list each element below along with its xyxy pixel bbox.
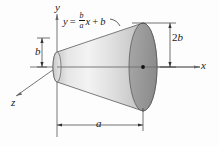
dimension-label-2b: 2b (172, 32, 183, 43)
diagram-canvas (0, 0, 219, 146)
equation-equals: = (70, 16, 76, 27)
dimension-label-b: b (35, 46, 41, 57)
dim-a-arrow-left (57, 123, 62, 126)
z-axis-line (16, 67, 57, 96)
figure-container: y x z b a 2b y = b a x + b (0, 0, 219, 146)
equation-plus: + (92, 16, 98, 27)
dimension-label-a: a (96, 118, 102, 129)
dim-b-arrow-bottom (40, 62, 43, 67)
equation-variable-x: x (86, 16, 91, 27)
y-axis-label: y (55, 2, 60, 13)
equation-fraction-denominator: a (79, 20, 85, 30)
equation-lhs: y (63, 16, 68, 27)
x-axis-arrowhead (194, 65, 200, 68)
dim-a-arrow-right (138, 123, 143, 126)
equation-fraction-numerator: b (79, 12, 85, 21)
y-axis-arrowhead (55, 14, 58, 20)
z-axis-arrowhead (16, 92, 22, 96)
equation-label: y = b a x + b (63, 12, 105, 30)
equation-fraction: b a (79, 12, 85, 30)
equation-leader-line (110, 19, 120, 26)
dimension-label-2b-var: b (178, 31, 184, 43)
equation-intercept: b (100, 16, 105, 27)
dim-2b-arrow-bottom (168, 62, 171, 67)
z-axis-label: z (11, 97, 15, 108)
dim-2b-arrow-top (168, 23, 171, 28)
dim-b-arrow-top (40, 38, 43, 43)
center-point-dot (141, 65, 145, 69)
x-axis-label: x (201, 60, 206, 71)
